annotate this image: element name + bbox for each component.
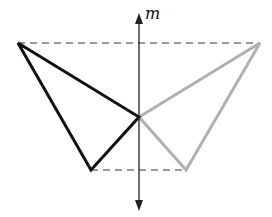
reflected-triangle xyxy=(139,43,260,170)
original-triangle xyxy=(18,43,139,170)
arrow-down-icon xyxy=(135,200,143,211)
arrow-up-icon xyxy=(135,13,143,24)
reflection-diagram xyxy=(0,0,272,217)
axis-label-m: m xyxy=(145,6,160,22)
